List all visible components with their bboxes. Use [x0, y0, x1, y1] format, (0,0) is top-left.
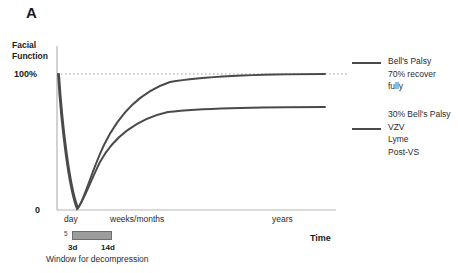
x-label-weeks-months: weeks/months [110, 214, 164, 224]
x-axis-title: Time [310, 233, 331, 243]
x-label-day: day [64, 214, 78, 224]
legend-label-incomplete-recovery: 30% Bell's PalsyVZVLymePost-VS [388, 108, 451, 158]
curve-incomplete-recovery [58, 74, 325, 209]
legend-swatch-incomplete-recovery [352, 128, 381, 130]
decompression-window-caption: Window for decompression [46, 254, 149, 264]
window-start-marker: 5 [64, 230, 68, 237]
legend-label-full-recovery: Bell's Palsy70% recoverfully [388, 55, 436, 93]
legend-swatch-full-recovery [352, 62, 381, 64]
window-tick-3d: 3d [68, 243, 77, 252]
window-tick-14d: 14d [101, 243, 115, 252]
figure-panel: A FacialFunction 100% 0 day weeks/months… [0, 0, 458, 273]
decompression-window-bar [72, 231, 112, 240]
x-label-years: years [272, 214, 293, 224]
curve-full-recovery [59, 74, 325, 208]
